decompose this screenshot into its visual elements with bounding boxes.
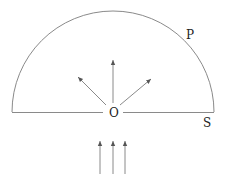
label-o: O [109,106,119,120]
arrow-upper-left [78,77,106,105]
semicircle-diagram: O P S [0,0,226,180]
label-p: P [186,28,194,42]
arrow-upper-right [120,79,151,105]
label-s: S [203,116,211,130]
